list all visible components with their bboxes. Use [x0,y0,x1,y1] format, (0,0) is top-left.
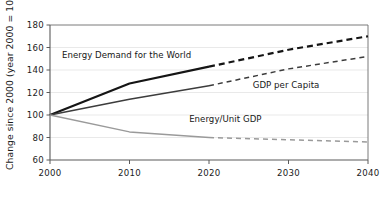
y-tick-label-120: 120 [27,88,44,98]
x-tick-label-2030: 2030 [277,168,300,178]
chart-container: Change since 2000 (year 2000 = 100) 6080… [0,0,387,197]
series-label-0: Energy Demand for the World [62,50,191,60]
x-tick-label-2040: 2040 [356,168,379,178]
y-tick-label-60: 60 [32,155,44,165]
x-tick-label-2000: 2000 [38,168,61,178]
x-tick-label-2020: 2020 [197,168,220,178]
line-chart: Change since 2000 (year 2000 = 100) 6080… [0,0,387,197]
series-label-1: GDP per Capita [253,80,320,90]
y-tick-label-160: 160 [27,43,44,53]
y-tick-label-180: 180 [27,20,44,30]
y-tick-label-80: 80 [32,133,44,143]
y-tick-label-100: 100 [27,110,44,120]
y-tick-label-140: 140 [27,65,44,75]
series-label-2: Energy/Unit GDP [189,114,261,124]
x-tick-label-2010: 2010 [118,168,141,178]
y-axis-title-text: Change since 2000 (year 2000 = 100) [4,0,15,170]
y-axis-title: Change since 2000 (year 2000 = 100) [4,0,15,170]
